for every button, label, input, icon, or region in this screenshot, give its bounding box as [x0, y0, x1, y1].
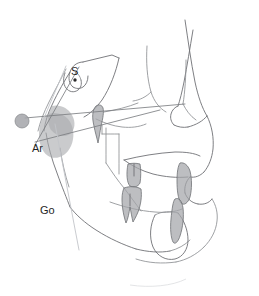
- upper-incisor: [177, 163, 192, 204]
- cephalometric-tracing-canvas: S Ar Go: [0, 0, 259, 296]
- cephalometric-figure: S Ar Go: [0, 0, 259, 296]
- gray-circle-marker: [15, 114, 29, 128]
- reference-lines-group: [25, 66, 185, 250]
- upper-molar: [127, 163, 141, 187]
- landmark-label-s: S: [71, 65, 78, 77]
- orbital-floor-outline: [133, 46, 166, 112]
- soft-tissue-nasal-profile: [171, 20, 207, 127]
- lower-incisor: [171, 198, 184, 243]
- landmark-label-ar: Ar: [32, 142, 43, 154]
- sella-landmark-dot: [73, 78, 76, 81]
- lower-molar: [122, 187, 141, 223]
- landmark-label-go: Go: [40, 204, 55, 216]
- bottom-edge-artifact: [130, 279, 186, 286]
- pterygoid-marking: [93, 105, 104, 143]
